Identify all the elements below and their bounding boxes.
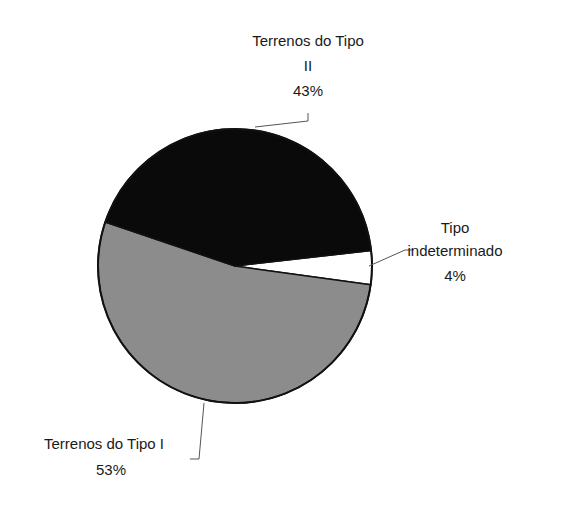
- leader-line-tipo-i: [190, 403, 204, 459]
- label-tipo-i-line1: Terrenos do Tipo I: [44, 435, 164, 452]
- leader-line-tipo-ii: [255, 113, 308, 127]
- data-label-tipo-indeterminado: Tipo indeterminado 4%: [407, 219, 502, 284]
- pie-slices: [98, 129, 372, 403]
- label-tipo-ii-line1: Terrenos do Tipo: [252, 32, 364, 49]
- label-tipo-indeterminado-line2: indeterminado: [407, 242, 502, 259]
- data-label-tipo-ii: Terrenos do Tipo II 43%: [252, 32, 364, 99]
- leader-line-tipo-indeterminado: [369, 250, 412, 266]
- label-tipo-indeterminado-value: 4%: [444, 267, 466, 284]
- label-tipo-indeterminado-line1: Tipo: [441, 219, 470, 236]
- label-tipo-ii-value: 43%: [293, 82, 323, 99]
- data-label-tipo-i: Terrenos do Tipo I 53%: [44, 435, 164, 478]
- label-tipo-i-value: 53%: [96, 461, 126, 478]
- label-tipo-ii-line2: II: [304, 57, 312, 74]
- pie-chart: Tipo indeterminado 4% Terrenos do Tipo I…: [0, 0, 563, 510]
